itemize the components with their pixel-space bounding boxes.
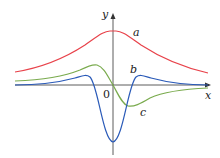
y-axis-label: y: [101, 8, 109, 21]
curve-c-label: c: [140, 106, 146, 119]
curve-b: [15, 65, 208, 106]
curve-a-label: a: [133, 26, 140, 39]
x-axis-label: x: [205, 89, 212, 102]
y-axis-arrow-icon: [111, 13, 116, 19]
curve-c: [15, 75, 208, 142]
origin-label: 0: [103, 88, 110, 101]
curve-a: [15, 31, 208, 73]
curve-b-label: b: [130, 63, 137, 76]
graph-figure: y x 0 a b c: [0, 0, 220, 158]
